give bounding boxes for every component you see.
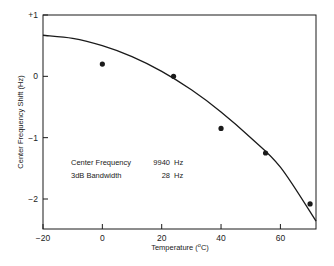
x-tick-label: 60 bbox=[276, 233, 286, 243]
x-tick-label: 0 bbox=[100, 233, 105, 243]
x-tick-label: −20 bbox=[36, 233, 51, 243]
annotation-center-frequency-unit: Hz bbox=[174, 158, 183, 167]
data-point bbox=[171, 74, 176, 79]
y-axis-title: Center Frequency Shift (Hz) bbox=[16, 75, 25, 169]
annotation-center-frequency-label: Center Frequency bbox=[71, 158, 131, 167]
annotation-box: Center Frequency 9940 Hz 3dB Bandwidth 2… bbox=[71, 158, 183, 180]
x-axis-title: Temperature (oC) bbox=[151, 242, 209, 252]
fitted-curve bbox=[43, 35, 316, 221]
data-point bbox=[307, 201, 312, 206]
annotation-center-frequency-value: 9940 bbox=[153, 158, 170, 167]
x-tick-label: 20 bbox=[157, 233, 167, 243]
data-points bbox=[100, 61, 313, 206]
plot-frame bbox=[43, 15, 316, 229]
y-tick-label: −1 bbox=[28, 133, 38, 143]
data-point bbox=[218, 126, 223, 131]
annotation-bandwidth-label: 3dB Bandwidth bbox=[71, 171, 121, 180]
annotation-bandwidth-unit: Hz bbox=[174, 171, 183, 180]
y-axis-ticks: +10−1−2 bbox=[28, 10, 48, 204]
plot-border bbox=[43, 15, 316, 229]
annotation-bandwidth-value: 28 bbox=[162, 171, 170, 180]
y-tick-label: 0 bbox=[33, 71, 38, 81]
x-tick-label: 40 bbox=[216, 233, 226, 243]
x-axis-ticks: −200204060 bbox=[36, 224, 286, 243]
chart: −200204060 +10−1−2 Temperature (oC) Cent… bbox=[0, 0, 334, 266]
y-tick-label: +1 bbox=[28, 10, 38, 20]
data-point bbox=[263, 150, 268, 155]
data-point bbox=[100, 61, 105, 66]
y-tick-label: −2 bbox=[28, 194, 38, 204]
